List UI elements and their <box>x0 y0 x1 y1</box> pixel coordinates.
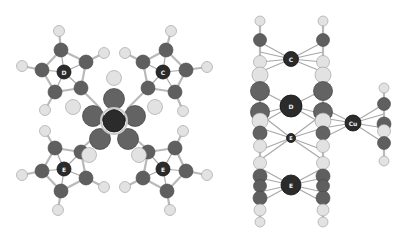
carbon-atom <box>48 141 62 155</box>
hydrogen-atom <box>178 126 189 137</box>
carbon-atom <box>254 180 267 193</box>
metal-label: D <box>62 69 67 76</box>
hydrogen-atom <box>53 205 64 216</box>
hydrogen-atom <box>132 148 147 163</box>
carbon-atom <box>136 171 150 185</box>
carbon-atom <box>79 171 93 185</box>
carbon-atom <box>159 43 173 57</box>
hydrogen-atom <box>379 83 389 93</box>
hydrogen-atom <box>317 157 330 170</box>
hydrogen-atom <box>318 16 328 26</box>
hydrogen-atom <box>166 26 177 37</box>
top-view: D C <box>17 26 213 216</box>
hydrogen-atom <box>40 105 51 116</box>
carbon-atom <box>141 81 155 95</box>
hydrogen-atom <box>202 170 213 181</box>
hydrogen-atom <box>54 26 65 37</box>
hydrogen-atom <box>107 71 122 86</box>
hydrogen-atom <box>17 61 28 72</box>
hydrogen-atom <box>255 16 265 26</box>
carbon-atom <box>317 34 330 47</box>
hydrogen-atom <box>318 217 328 227</box>
metal-label: Cu <box>349 120 358 127</box>
carbon-atom <box>74 81 88 95</box>
carbon-atom <box>316 126 330 140</box>
hydrogen-atom <box>317 140 330 153</box>
hydrogen-atom <box>120 48 131 59</box>
carbon-atom <box>54 184 68 198</box>
structure-canvas: D C <box>0 0 406 240</box>
carbon-atom <box>79 55 93 69</box>
hydrogen-atom <box>66 100 81 115</box>
hydrogen-atom <box>254 56 267 69</box>
carbon-atom <box>136 55 150 69</box>
hydrogen-atom <box>178 106 189 117</box>
hydrogen-atom <box>315 67 331 83</box>
metal-label: C <box>161 69 166 76</box>
hydrogen-atom <box>317 56 330 69</box>
carbon-atom <box>48 85 62 99</box>
carbon-atom <box>253 191 267 205</box>
metal-label: C <box>289 56 294 63</box>
hydrogen-atom <box>99 182 110 193</box>
molecular-structure-figure: D C <box>0 0 406 240</box>
hydrogen-atom <box>148 100 163 115</box>
carbon-atom <box>251 82 270 101</box>
central-metal-atom <box>103 110 125 132</box>
hydrogen-atom <box>165 205 176 216</box>
carbon-atom <box>316 191 330 205</box>
carbon-atom <box>378 137 391 150</box>
hydrogen-atom <box>254 140 267 153</box>
metal-label: D <box>289 103 294 110</box>
carbon-atom <box>254 34 267 47</box>
carbon-atom <box>179 164 193 178</box>
hydrogen-atom <box>255 217 265 227</box>
hydrogen-atom <box>378 125 391 138</box>
hydrogen-atom <box>202 62 213 73</box>
hydrogen-atom <box>17 170 28 181</box>
metal-label: E <box>289 182 293 189</box>
carbon-atom <box>253 126 267 140</box>
side-view: C D E E Cu <box>251 16 392 227</box>
carbon-atom <box>168 85 182 99</box>
metal-label: E <box>62 166 66 173</box>
carbon-atom <box>168 141 182 155</box>
hydrogen-atom <box>254 157 267 170</box>
carbon-atom <box>104 89 125 110</box>
carbon-atom <box>35 164 49 178</box>
hydrogen-atom <box>40 126 51 137</box>
hydrogen-atom <box>82 148 97 163</box>
hydrogen-atom <box>99 48 110 59</box>
carbon-atom <box>317 180 330 193</box>
hydrogen-atom <box>120 182 131 193</box>
hydrogen-atom <box>379 156 389 166</box>
carbon-atom <box>54 43 68 57</box>
hydrogen-atom <box>252 67 268 83</box>
hydrogen-atom <box>254 204 266 216</box>
carbon-atom <box>378 98 391 111</box>
metal-label: E <box>161 166 165 173</box>
carbon-atom <box>160 184 174 198</box>
carbon-atom <box>314 82 333 101</box>
carbon-atom <box>35 63 49 77</box>
metal-label: E <box>289 135 293 141</box>
carbon-atom <box>179 63 193 77</box>
hydrogen-atom <box>317 204 329 216</box>
